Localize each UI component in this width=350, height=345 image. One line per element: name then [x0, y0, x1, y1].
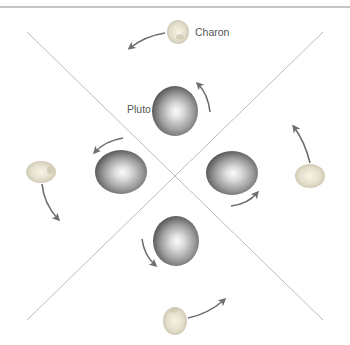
charon-bottom [163, 307, 187, 335]
charon-label: Charon [195, 27, 229, 38]
pluto-top [152, 86, 198, 136]
arrow-charon-bottom [188, 300, 224, 318]
charon-right [295, 164, 325, 188]
arrow-pluto-right [231, 193, 257, 206]
arrow-pluto-left [95, 138, 123, 152]
arrow-pluto-bottom [142, 239, 155, 265]
pluto-charon-diagram [0, 0, 350, 345]
pluto-right [206, 151, 258, 195]
pluto-left [95, 150, 147, 194]
pluto-label: Pluto [127, 104, 151, 115]
arrow-charon-right [294, 127, 310, 163]
charon-left [26, 161, 56, 183]
arrow-charon-top [130, 33, 165, 48]
pluto-bottom [153, 216, 199, 266]
arrow-charon-left [42, 184, 58, 219]
arrow-pluto-top [198, 84, 210, 112]
charon-top [167, 20, 189, 44]
